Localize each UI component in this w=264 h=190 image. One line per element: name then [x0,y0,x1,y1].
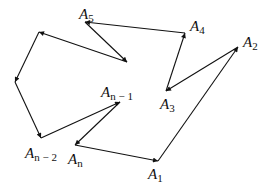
label-A5: A5 [79,7,94,24]
vector-An-to-A1 [75,145,158,161]
label-A4: A4 [190,19,205,36]
vector-P6-to-P7 [39,32,127,62]
vector-A4-to-A5 [85,22,185,33]
vector-polygon-diagram: A1A2A3A4A5An − 2An − 1An [0,0,264,190]
label-An-1: An − 1 [101,85,133,102]
vector-An-1-to-An [75,102,120,145]
vector-An-2-to-An-1 [41,102,120,138]
label-A2: A2 [243,35,258,52]
vector-A5-to-P6 [85,22,127,62]
vector-P8-to-An-2 [15,82,41,138]
label-A1: A1 [148,167,163,184]
label-A3: A3 [160,97,175,114]
label-An: An [68,152,83,169]
vector-A2-to-A3 [166,47,238,91]
vector-A3-to-A4 [166,33,185,91]
vector-P7-to-P8 [15,32,39,82]
label-An-2: An − 2 [25,146,57,163]
